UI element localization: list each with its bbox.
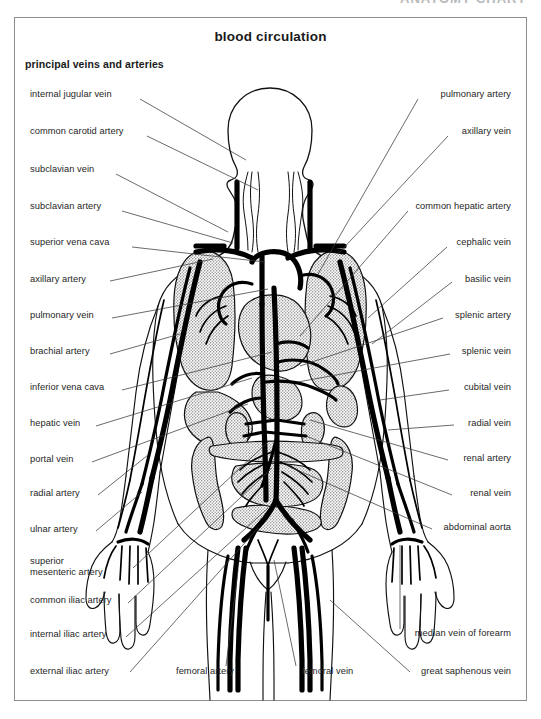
label-cephalic-vein: cephalic vein xyxy=(457,237,511,248)
label-median-vein-of-forearm: median vein of forearm xyxy=(415,628,511,639)
label-common-iliac-artery: common iliac artery xyxy=(30,595,112,606)
label-axillary-vein: axillary vein xyxy=(462,126,511,137)
page-title: blood circulation xyxy=(0,29,541,44)
label-superior: superior xyxy=(30,556,64,567)
label-superior-vena-cava: superior vena cava xyxy=(30,237,109,248)
label-subclavian-artery: subclavian artery xyxy=(30,201,101,212)
page-subtitle: principal veins and arteries xyxy=(25,58,164,70)
clipped-header-text: ANATOMY CHART xyxy=(400,0,526,6)
label-external-iliac-artery: external iliac artery xyxy=(30,666,109,677)
label-renal-vein: renal vein xyxy=(470,488,511,499)
label-axillary-artery: axillary artery xyxy=(30,274,86,285)
label-renal-artery: renal artery xyxy=(463,453,511,464)
label-internal-jugular-vein: internal jugular vein xyxy=(30,89,112,100)
diagram-page: ANATOMY CHART blood circulation principa… xyxy=(0,0,541,719)
label-portal-vein: portal vein xyxy=(30,454,73,465)
label-splenic-vein: splenic vein xyxy=(462,346,511,357)
label-femoral-vein: femoral vein xyxy=(302,666,353,677)
label-common-hepatic-artery: common hepatic artery xyxy=(415,201,511,212)
label-hepatic-vein: hepatic vein xyxy=(30,418,80,429)
label-radial-artery: radial artery xyxy=(30,488,80,499)
label-internal-iliac-artery: internal iliac artery xyxy=(30,629,107,640)
label-cubital-vein: cubital vein xyxy=(464,382,511,393)
label-femoral-artery: femoral artery xyxy=(176,666,234,677)
label-great-saphenous-vein: great saphenous vein xyxy=(421,666,511,677)
clipped-header-strip: ANATOMY CHART xyxy=(400,0,541,9)
label-ulnar-artery: ulnar artery xyxy=(30,524,78,535)
label-abdominal-aorta: abdominal aorta xyxy=(444,522,511,533)
label-mesenteric-artery: mesenteric artery xyxy=(30,567,103,578)
label-inferior-vena-cava: inferior vena cava xyxy=(30,382,104,393)
label-basilic-vein: basilic vein xyxy=(465,274,511,285)
label-subclavian-vein: subclavian vein xyxy=(30,164,94,175)
label-brachial-artery: brachial artery xyxy=(30,346,90,357)
label-pulmonary-artery: pulmonary artery xyxy=(440,89,511,100)
label-radial-vein: radial vein xyxy=(468,418,511,429)
label-splenic-artery: splenic artery xyxy=(455,310,511,321)
label-common-carotid-artery: common carotid artery xyxy=(30,126,124,137)
label-pulmonary-vein: pulmonary vein xyxy=(30,310,94,321)
